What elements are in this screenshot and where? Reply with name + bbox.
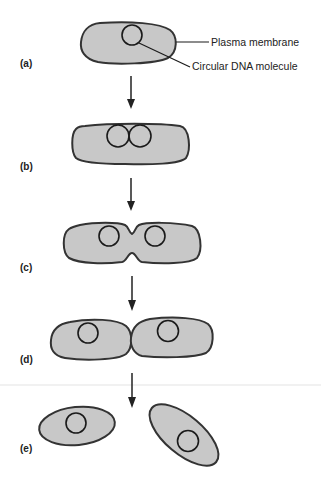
arrow-down-icon: [127, 76, 135, 109]
label-circular-dna: Circular DNA molecule: [192, 60, 298, 72]
stage-a: Plasma membrane Circular DNA molecule (a…: [20, 22, 299, 72]
stage-label-c: (c): [20, 262, 32, 273]
cell-d-left-membrane: [51, 320, 131, 360]
cell-e-right-membrane: [140, 393, 229, 476]
cell-d-right-membrane: [131, 318, 213, 358]
stage-b: (b): [20, 124, 189, 172]
stage-label-b: (b): [20, 161, 33, 172]
stage-label-a: (a): [20, 58, 32, 69]
arrow-down-icon: [128, 373, 136, 408]
binary-fission-diagram: Plasma membrane Circular DNA molecule (a…: [0, 0, 321, 480]
stage-label-d: (d): [20, 354, 33, 365]
stage-label-e: (e): [20, 443, 32, 454]
arrow-down-icon: [128, 276, 136, 311]
stage-d: (d): [20, 318, 213, 365]
cell-e-left-membrane: [37, 403, 117, 449]
stage-c: (c): [20, 223, 200, 273]
cell-c-membrane: [64, 223, 201, 263]
stage-e: (e): [20, 393, 228, 476]
label-plasma-membrane: Plasma membrane: [211, 36, 299, 48]
cell-a-membrane: [81, 22, 176, 63]
arrow-down-icon: [127, 178, 135, 211]
